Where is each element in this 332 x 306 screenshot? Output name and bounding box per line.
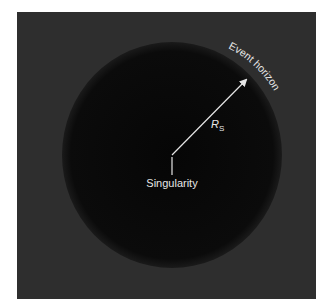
singularity-label: Singularity (146, 177, 198, 189)
black-hole-diagram: RS Singularity Event horizon (0, 0, 332, 306)
